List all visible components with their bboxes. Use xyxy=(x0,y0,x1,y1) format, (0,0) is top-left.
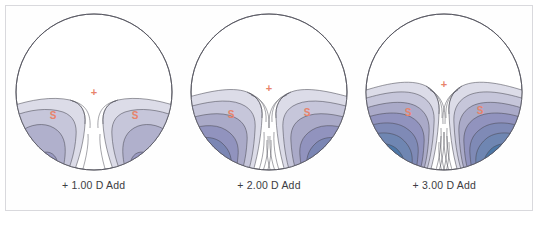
lens-panel-row: + S S + 1.00 D Add xyxy=(6,6,532,210)
segment-marker-3-left: S xyxy=(405,107,412,118)
lens-contour-svg-1: + S S xyxy=(8,6,180,178)
contour-band-2-left-6 xyxy=(197,151,226,178)
contour-band-3-right-9 xyxy=(496,167,509,178)
lens-panel-1: + S S + 1.00 D Add xyxy=(8,6,180,206)
contour-band-2-right-4 xyxy=(300,126,353,178)
segment-marker-3-right: S xyxy=(477,105,484,116)
contour-band-3-right-8 xyxy=(490,155,519,178)
lens-caption-2: + 2.00 D Add xyxy=(237,179,300,191)
lens-diagram-2: + S S xyxy=(183,6,355,178)
lens-panel-3: + S S + 3.00 D Add xyxy=(358,6,530,206)
lens-diagram-1: + S S xyxy=(8,6,180,178)
lens-caption-1: + 1.00 D Add xyxy=(62,179,125,191)
lens-contour-svg-3: + S S xyxy=(358,6,530,178)
segment-marker-1-right: S xyxy=(131,110,138,121)
segment-marker-2-left: S xyxy=(228,109,235,120)
contour-band-1-right-4 xyxy=(130,152,150,178)
fitting-cross-2: + xyxy=(266,82,272,94)
contour-band-2-right-6 xyxy=(312,151,341,178)
contour-band-3-left-9 xyxy=(380,167,393,178)
lens-diagram-3: + S S xyxy=(358,6,530,178)
contour-band-2-right-7 xyxy=(318,165,331,178)
lens-caption-3: + 3.00 D Add xyxy=(413,179,476,191)
contour-band-2-left-7 xyxy=(207,165,220,178)
contour-band-2-left-4 xyxy=(185,126,238,178)
segment-marker-1-left: S xyxy=(49,110,56,121)
segment-marker-2-right: S xyxy=(304,107,311,118)
contour-band-1-left-4 xyxy=(38,152,58,178)
fitting-cross-1: + xyxy=(90,86,96,98)
lens-panel-2: + S S + 2.00 D Add xyxy=(183,6,355,206)
figure-root: + S S + 1.00 D Add xyxy=(0,0,538,232)
lens-contour-svg-2: + S S xyxy=(183,6,355,178)
fitting-cross-3: + xyxy=(441,78,447,90)
contour-band-3-left-8 xyxy=(370,155,399,178)
